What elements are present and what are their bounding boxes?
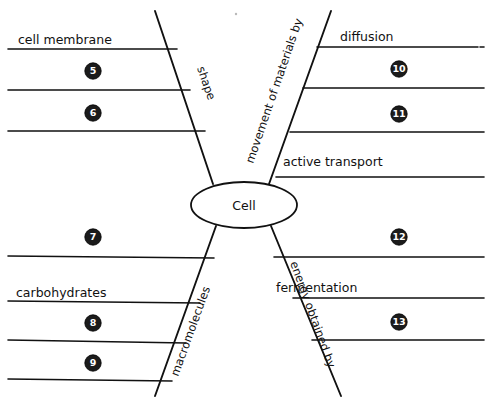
answer-line	[8, 379, 172, 381]
center-node-group: Cell	[191, 182, 297, 228]
marker-number: 7	[90, 231, 97, 242]
marker-number: 13	[392, 316, 405, 327]
number-marker-7: 7	[85, 229, 101, 245]
number-marker-10: 10	[391, 61, 407, 77]
answer-line	[8, 256, 214, 258]
slot-label-fermentation: fermentation	[276, 280, 357, 295]
center-node-label: Cell	[232, 198, 255, 213]
number-marker-13: 13	[391, 314, 407, 330]
answer-line	[8, 301, 200, 303]
paper-speck-icon	[478, 46, 480, 48]
number-marker-11: 11	[391, 106, 407, 122]
number-marker-6: 6	[85, 105, 101, 121]
number-marker-5: 5	[85, 63, 101, 79]
marker-number: 8	[90, 317, 97, 328]
branch-label-energy: energy obtained by	[287, 259, 339, 369]
slot-label-carbohydrates: carbohydrates	[16, 285, 106, 300]
marker-number: 12	[392, 231, 405, 242]
paper-speck-icon	[235, 13, 237, 15]
marker-number: 9	[90, 357, 97, 368]
marker-number: 6	[90, 107, 97, 118]
number-marker-12: 12	[391, 229, 407, 245]
slot-label-active-transport: active transport	[283, 154, 383, 169]
concept-map-svg: Cell shapemovement of materials bymacrom…	[0, 0, 490, 408]
number-marker-9: 9	[85, 355, 101, 371]
branch-label-shape: shape	[194, 64, 219, 101]
number-marker-8: 8	[85, 315, 101, 331]
marker-number: 11	[392, 108, 405, 119]
concept-map-canvas: Cell shapemovement of materials bymacrom…	[0, 0, 490, 408]
slot-label-cell-membrane: cell membrane	[18, 32, 112, 47]
answer-line	[8, 340, 186, 343]
branch-line	[155, 226, 216, 396]
marker-number: 5	[90, 65, 97, 76]
marker-number: 10	[392, 63, 406, 74]
slot-label-diffusion: diffusion	[340, 29, 394, 44]
branch-label-movement: movement of materials by	[243, 16, 306, 165]
